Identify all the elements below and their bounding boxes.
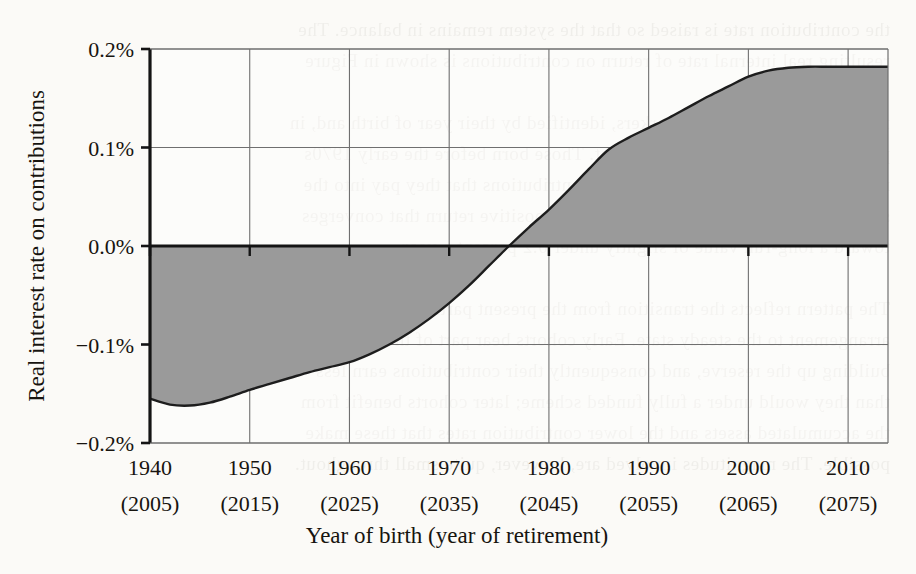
x-tick-label: 1970 [427, 455, 471, 480]
y-axis-title: Real interest rate on contributions [24, 90, 49, 402]
x-tick-label: 2000 [726, 455, 770, 480]
chart-figure: 0.2%0.1%0.0%−0.1%−0.2% 19401950196019701… [0, 0, 916, 574]
y-tick-label: 0.0% [88, 234, 134, 259]
x-axis-tick-labels: 19401950196019701980199020002010 [128, 455, 870, 480]
x-tick-label: 1990 [627, 455, 671, 480]
x-tick-label: 1960 [327, 455, 371, 480]
x-tick-sublabel: (2055) [619, 491, 678, 516]
y-tick-label: −0.2% [76, 431, 134, 456]
y-tick-label: 0.2% [88, 37, 134, 62]
chart-svg: 0.2%0.1%0.0%−0.1%−0.2% 19401950196019701… [0, 0, 916, 574]
x-tick-sublabel: (2005) [121, 491, 180, 516]
x-tick-sublabel: (2045) [520, 491, 579, 516]
y-tick-label: 0.1% [88, 136, 134, 161]
x-tick-label: 1940 [128, 455, 172, 480]
x-tick-sublabel: (2015) [220, 491, 279, 516]
y-tick-label: −0.1% [76, 333, 134, 358]
y-axis-tick-labels: 0.2%0.1%0.0%−0.1%−0.2% [76, 37, 134, 456]
x-axis-tick-sublabels: (2005)(2015)(2025)(2035)(2045)(2055)(206… [121, 491, 878, 516]
x-tick-sublabel: (2075) [819, 491, 878, 516]
x-axis-title: Year of birth (year of retirement) [306, 523, 608, 548]
x-tick-label: 1980 [527, 455, 571, 480]
x-tick-sublabel: (2065) [719, 491, 778, 516]
x-tick-label: 1950 [228, 455, 272, 480]
x-tick-sublabel: (2025) [320, 491, 379, 516]
x-tick-label: 2010 [826, 455, 870, 480]
x-tick-sublabel: (2035) [420, 491, 479, 516]
